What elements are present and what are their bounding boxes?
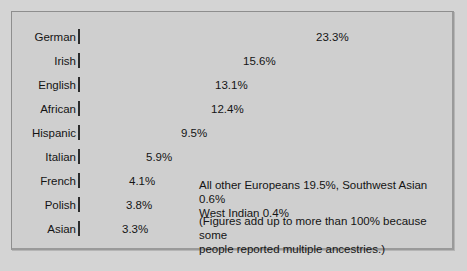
bar-track	[78, 197, 120, 212]
bar-category-label: Irish	[12, 52, 76, 70]
bar-value-label: 23.3%	[316, 28, 349, 46]
bar-value-label: 5.9%	[146, 148, 172, 166]
bar	[78, 197, 80, 212]
bar-track	[78, 101, 205, 116]
bar-value-label: 3.3%	[122, 220, 148, 238]
bar	[78, 29, 80, 44]
chart-figure: German23.3%Irish15.6%English13.1%African…	[11, 11, 454, 250]
bar-row: German23.3%	[12, 28, 455, 46]
annotation-footnote: (Figures add up to more than 100% becaus…	[199, 214, 447, 256]
bar-row: Hispanic9.5%	[12, 124, 455, 142]
bar	[78, 77, 80, 92]
bar-category-label: Polish	[12, 196, 76, 214]
bar	[78, 101, 80, 116]
bar	[78, 149, 80, 164]
bar-track	[78, 173, 123, 188]
bar-category-label: Italian	[12, 148, 76, 166]
bar-category-label: French	[12, 172, 76, 190]
bar	[78, 173, 80, 188]
bar-track	[78, 77, 209, 92]
bar-track	[78, 53, 237, 68]
bar-track	[78, 221, 116, 236]
bar-row: English13.1%	[12, 76, 455, 94]
bar-track	[78, 125, 175, 140]
bar-value-label: 15.6%	[243, 52, 276, 70]
bar	[78, 221, 80, 236]
bar-track	[78, 149, 140, 164]
bar-value-label: 3.8%	[126, 196, 152, 214]
bar-row: African12.4%	[12, 100, 455, 118]
bar-track	[78, 29, 310, 44]
bar-value-label: 12.4%	[211, 100, 244, 118]
bar	[78, 53, 80, 68]
bar-category-label: African	[12, 100, 76, 118]
bar-category-label: German	[12, 28, 76, 46]
bar-value-label: 9.5%	[181, 124, 207, 142]
bar-category-label: Asian	[12, 220, 76, 238]
bar-value-label: 13.1%	[215, 76, 248, 94]
bar-value-label: 4.1%	[129, 172, 155, 190]
bar	[78, 125, 80, 140]
bar-row: Irish15.6%	[12, 52, 455, 70]
bar-row: Italian5.9%	[12, 148, 455, 166]
bar-category-label: Hispanic	[12, 124, 76, 142]
bar-category-label: English	[12, 76, 76, 94]
